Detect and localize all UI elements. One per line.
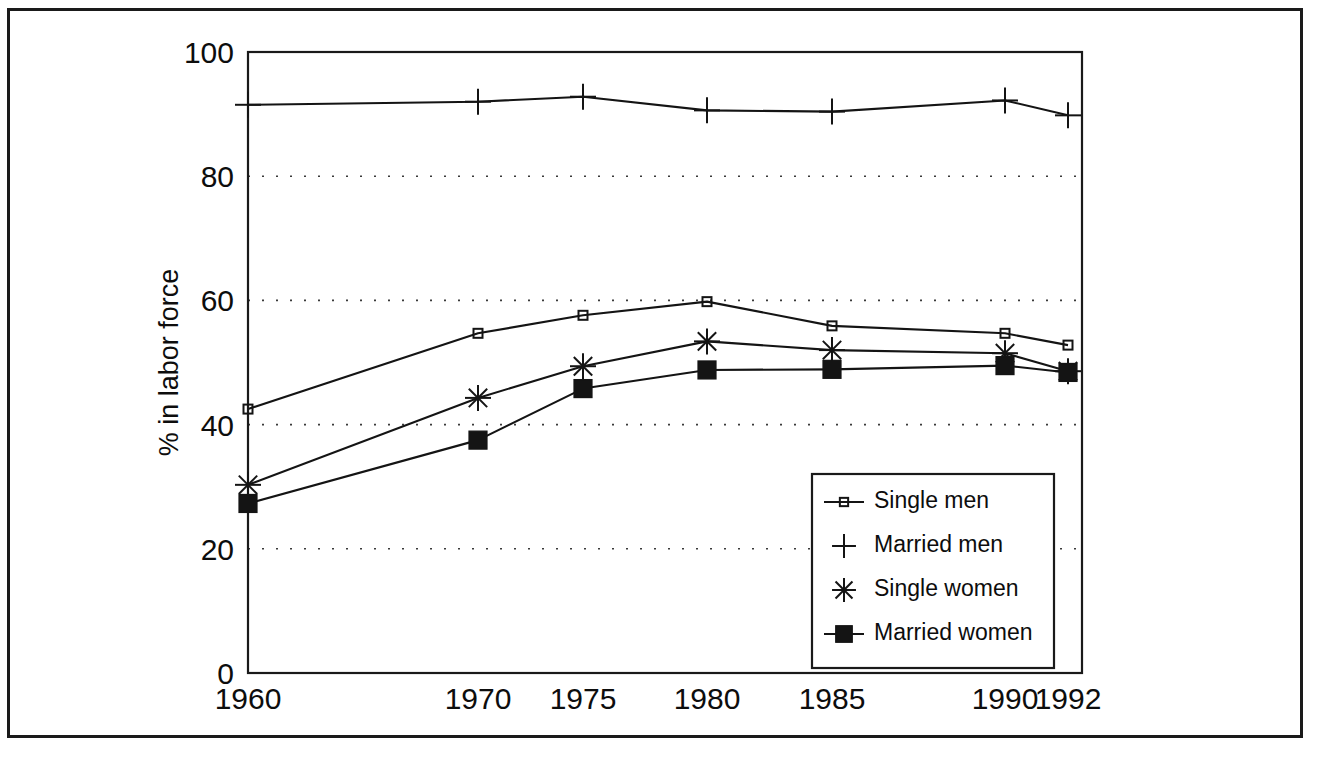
marker-asterisk (832, 578, 856, 602)
x-tick-label-1980: 1980 (674, 682, 741, 715)
x-tick-label-1960: 1960 (215, 682, 282, 715)
chart-legend: Single menMarried menSingle womenMarried… (812, 474, 1054, 668)
line-chart: 020406080100 196019701975198019851990199… (0, 0, 1319, 763)
filled-square-marker (469, 431, 487, 449)
marker-plus (694, 97, 720, 123)
series-single-men (244, 297, 1073, 413)
filled-square-marker (823, 360, 841, 378)
y-tick-label-80: 80 (201, 160, 234, 193)
series-line-single-men (248, 302, 1068, 409)
marker-plus (465, 89, 491, 115)
marker-filled-square (996, 357, 1014, 375)
legend-label-married-women: Married women (874, 619, 1033, 645)
x-tick-label-1992: 1992 (1035, 682, 1102, 715)
y-tick-label-20: 20 (201, 533, 234, 566)
x-tick-label-1990: 1990 (972, 682, 1039, 715)
marker-asterisk (819, 337, 845, 363)
filled-square-marker (996, 357, 1014, 375)
marker-filled-square (1059, 363, 1077, 381)
marker-filled-square (239, 494, 257, 512)
filled-square-marker (239, 494, 257, 512)
marker-filled-square (836, 626, 853, 643)
filled-square-marker (1059, 363, 1077, 381)
marker-asterisk (570, 353, 596, 379)
series-line-married-men (248, 97, 1068, 116)
legend-label-single-women: Single women (874, 575, 1018, 601)
marker-plus (570, 84, 596, 110)
filled-square-marker (836, 626, 853, 643)
y-tick-label-40: 40 (201, 409, 234, 442)
filled-square-marker (698, 361, 716, 379)
marker-plus (1055, 102, 1081, 128)
series-line-single-women (248, 341, 1068, 484)
marker-plus (992, 87, 1018, 113)
legend-label-married-men: Married men (874, 531, 1003, 557)
data-series-group (235, 84, 1081, 513)
x-tick-label-1975: 1975 (550, 682, 617, 715)
marker-plus (235, 92, 261, 118)
legend-label-single-men: Single men (874, 487, 989, 513)
marker-filled-square (469, 431, 487, 449)
marker-asterisk (694, 328, 720, 354)
chart-area: 020406080100 196019701975198019851990199… (0, 0, 1319, 763)
y-axis-tick-labels: 020406080100 (184, 36, 234, 690)
y-axis-title: % in labor force (154, 269, 184, 457)
marker-filled-square (574, 380, 592, 398)
filled-square-marker (574, 380, 592, 398)
x-tick-label-1985: 1985 (799, 682, 866, 715)
x-axis-tick-labels: 1960197019751980198519901992 (215, 682, 1102, 715)
marker-filled-square (823, 360, 841, 378)
marker-filled-square (698, 361, 716, 379)
marker-plus (819, 99, 845, 125)
marker-asterisk (465, 385, 491, 411)
y-tick-label-60: 60 (201, 284, 234, 317)
series-married-men (235, 84, 1081, 129)
x-tick-label-1970: 1970 (445, 682, 512, 715)
y-tick-label-100: 100 (184, 36, 234, 69)
